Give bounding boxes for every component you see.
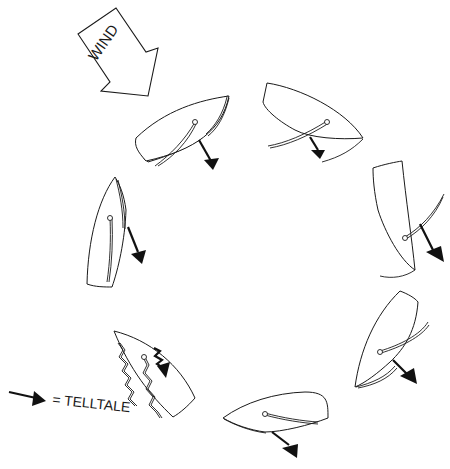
legend-arrow-icon [9,391,46,406]
boat-4 [355,291,429,388]
telltale-arrow-3 [420,224,444,262]
telltale-arrow-5 [272,432,298,458]
boat-5 [223,392,328,458]
telltale-arrow-1 [199,140,219,170]
boat-1 [135,96,229,170]
legend: = TELLTALE [9,391,131,415]
telltale-arrow-7 [128,227,146,264]
boat-7 [87,177,146,287]
legend-label: = TELLTALE [52,391,131,415]
points-of-sail-diagram: WIND [0,0,450,469]
boat-2 [263,83,363,162]
telltale-arrow-2 [310,137,325,159]
boat-3 [373,161,444,277]
telltale-arrow-4 [393,360,417,384]
wind-arrow: WIND [78,8,158,96]
